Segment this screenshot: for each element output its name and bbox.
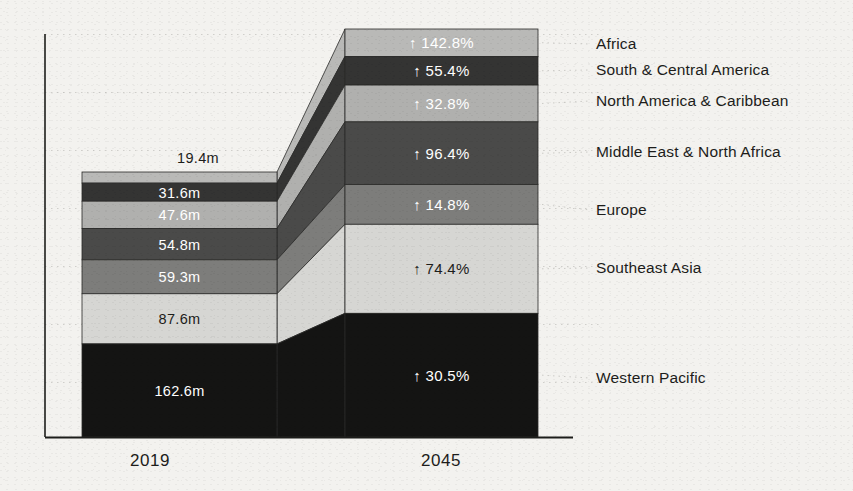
legend-item-label: South & Central America	[596, 61, 769, 78]
bar-change-label-2045: ↑ 74.4%	[413, 260, 469, 277]
legend-item[interactable]: Africa	[596, 35, 637, 53]
bar-value-label-2019: 47.6m	[159, 207, 201, 223]
legend-leader-line	[542, 204, 590, 210]
flow-ribbons	[277, 29, 345, 437]
tick-label-2045: 2045	[421, 451, 461, 470]
legend-item[interactable]: Western Pacific	[596, 369, 706, 387]
bar-change-label-2045: ↑ 14.8%	[413, 196, 469, 213]
bar-value-label-2019: 31.6m	[159, 185, 201, 201]
bar-value-label-2019: 54.8m	[159, 237, 201, 253]
bar-change-label-2045: ↑ 30.5%	[413, 367, 469, 384]
bar-segment	[82, 172, 277, 183]
legend-item[interactable]: Middle East & North Africa	[596, 143, 781, 161]
legend-item[interactable]: Southeast Asia	[596, 259, 702, 277]
legend-item-label: Africa	[596, 35, 637, 52]
legend-leader-line	[542, 268, 590, 269]
bar-change-label-2045: ↑ 142.8%	[409, 34, 474, 51]
legend-item-label: Europe	[596, 201, 647, 218]
legend-item-label: Southeast Asia	[596, 259, 702, 276]
bar-change-label-2045: ↑ 96.4%	[413, 145, 469, 162]
legend-leader-line	[542, 152, 590, 153]
bar-value-label-2019: 19.4m	[177, 150, 219, 166]
bar-value-label-2019: 87.6m	[159, 311, 201, 327]
legend-leader-line	[542, 43, 590, 44]
legend-item[interactable]: Europe	[596, 201, 647, 219]
bar-change-label-2045: ↑ 55.4%	[413, 62, 469, 79]
tick-label-2019: 2019	[130, 451, 170, 470]
stacked-bar-chart: 19.4m31.6m47.6m54.8m59.3m87.6m162.6m ↑ 1…	[0, 0, 853, 491]
legend-item-label: Middle East & North Africa	[596, 143, 781, 160]
legend-item[interactable]: North America & Caribbean	[596, 92, 788, 110]
bar-change-label-2045: ↑ 32.8%	[413, 95, 469, 112]
legend-item-label: Western Pacific	[596, 369, 706, 386]
x-tick-labels: 2019 2045	[130, 451, 461, 470]
legend-item-label: North America & Caribbean	[596, 92, 788, 109]
bar-value-label-2019: 162.6m	[154, 383, 204, 399]
legend-leader-lines	[542, 43, 590, 378]
legend-item[interactable]: South & Central America	[596, 61, 769, 79]
legend-leader-line	[542, 70, 590, 71]
legend-leader-line	[542, 375, 590, 378]
bar-value-label-2019: 59.3m	[159, 269, 201, 285]
legend-leader-line	[542, 101, 590, 103]
